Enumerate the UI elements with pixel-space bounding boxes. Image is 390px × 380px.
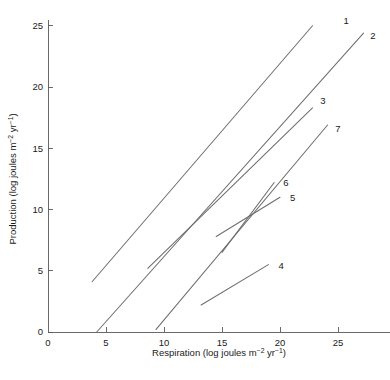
series-label-2: 2 (370, 30, 375, 41)
y-tick-label: 20 (32, 81, 43, 92)
x-axis-title: Respiration (log joules m−2 yr−1) (152, 347, 286, 359)
y-tick-label: 25 (32, 20, 43, 31)
axes-group (48, 20, 390, 332)
series-label-7: 7 (335, 123, 340, 134)
series-label-5: 5 (290, 192, 295, 203)
series-label-3: 3 (320, 95, 325, 106)
x-tick-label: 25 (333, 337, 344, 348)
y-tick-label: 15 (32, 143, 43, 154)
series-labels-group: 1234567 (279, 15, 376, 271)
series-group (92, 26, 363, 332)
x-axis-title-mid: yr (264, 347, 275, 358)
series-line-7 (156, 125, 328, 330)
x-tick-label: 5 (103, 337, 108, 348)
series-line-4 (201, 265, 268, 305)
svg-text:Production (log joules m−2 yr−: Production (log joules m−2 yr−1) (7, 113, 19, 244)
y-tick-label: 0 (38, 326, 43, 337)
chart-figure: 05101520250510152025 1234567 Respiration… (0, 0, 390, 380)
y-axis-title-lead: Production (log joules m (7, 143, 18, 245)
y-axis-title-tail: ) (7, 113, 18, 116)
series-line-1 (92, 26, 312, 282)
y-tick-label: 10 (32, 204, 43, 215)
x-axis-title-tail: ) (283, 347, 286, 358)
series-label-4: 4 (279, 260, 284, 271)
x-axis-title-lead: Respiration (log joules m (152, 347, 257, 358)
x-tick-label: 0 (45, 337, 50, 348)
series-label-6: 6 (283, 177, 288, 188)
chart-plot-area: 05101520250510152025 1234567 Respiration… (0, 0, 390, 380)
y-axis-title: Production (log joules m−2 yr−1) (7, 113, 19, 244)
svg-text:Respiration (log joules m−2 yr: Respiration (log joules m−2 yr−1) (152, 347, 286, 359)
series-label-1: 1 (343, 15, 348, 26)
tick-labels-group: 05101520250510152025 (32, 20, 343, 348)
y-axis-title-mid: yr (7, 124, 18, 135)
y-tick-label: 5 (38, 265, 43, 276)
